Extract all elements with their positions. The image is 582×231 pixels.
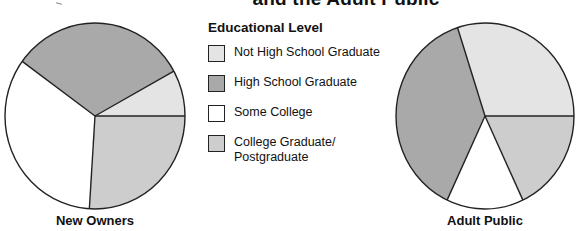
legend-label: Some College <box>234 105 313 120</box>
pie-chart-adult-public <box>390 18 582 214</box>
legend-label-line2: Postgraduate <box>234 150 335 165</box>
legend-item-some-college: Some College <box>208 103 388 133</box>
legend-label: College Graduate/ Postgraduate <box>234 135 335 165</box>
legend-label: Not High School Graduate <box>234 45 380 60</box>
legend-swatch <box>208 135 225 152</box>
pie-label-new-owners: New Owners <box>25 213 165 228</box>
legend-swatch <box>208 105 225 122</box>
legend-title: Educational Level <box>208 20 388 35</box>
legend: Educational Level Not High School Gradua… <box>208 20 388 173</box>
legend-swatch <box>208 45 225 62</box>
legend-item-hs-grad: High School Graduate <box>208 73 388 103</box>
legend-item-not-hs-grad: Not High School Graduate <box>208 43 388 73</box>
legend-label: High School Graduate <box>234 75 357 90</box>
legend-label-line1: College Graduate/ <box>234 135 335 150</box>
legend-item-college-grad: College Graduate/ Postgraduate <box>208 133 388 173</box>
chart-title: and the Adult Public <box>0 0 582 10</box>
pie-slice <box>89 116 185 209</box>
pie-chart-new-owners <box>0 18 192 214</box>
legend-swatch <box>208 75 225 92</box>
chart-title-text: and the Adult Public <box>253 0 440 9</box>
pie-label-adult-public: Adult Public <box>415 213 555 228</box>
